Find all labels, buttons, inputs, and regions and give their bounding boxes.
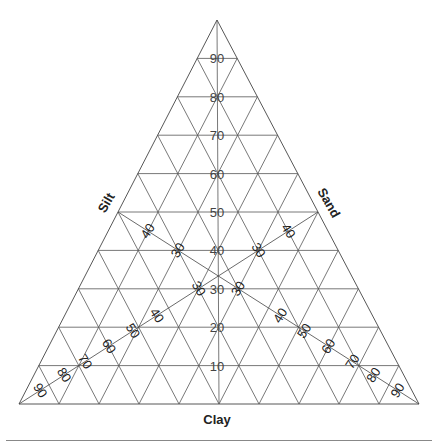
silt-diagonal-label: 80 [363, 365, 383, 385]
silt-diagonal-label: 30 [228, 278, 248, 298]
bottom-rule-divider [6, 440, 432, 441]
center-scale-label: 90 [210, 51, 224, 66]
center-scale-label: 50 [210, 205, 224, 220]
silt-diagonal-label: 30 [168, 240, 188, 260]
center-scale-label: 40 [210, 243, 224, 258]
ternary-diagram: 102030405060708090 908070605040303040403… [0, 0, 435, 444]
silt-diagonal-label: 60 [318, 336, 338, 356]
sand-diagonal-label: 70 [75, 351, 95, 371]
center-scale-label: 70 [210, 128, 224, 143]
axis-label-silt: Silt [95, 190, 118, 216]
sand-diagonal-label: 30 [248, 240, 268, 260]
silt-diagonal-label: 70 [342, 351, 362, 371]
sand-diagonal-label: 40 [278, 221, 298, 241]
axis-label-clay: Clay [203, 412, 231, 427]
silt-diagonal-label: 90 [387, 380, 407, 400]
center-scale-labels: 102030405060708090 [210, 51, 224, 373]
sand-diagonal-label: 30 [189, 278, 209, 298]
center-scale-label: 30 [210, 282, 224, 297]
sand-diagonal-label: 80 [54, 365, 74, 385]
sand-diagonal-label: 90 [30, 380, 50, 400]
silt-diagonal-label: 40 [137, 221, 157, 241]
center-scale-label: 80 [210, 90, 224, 105]
silt-diagonal-label: 40 [270, 305, 290, 325]
sand-diagonal-label: 40 [147, 305, 167, 325]
sand-diagonal-label: 60 [99, 336, 119, 356]
center-scale-label: 10 [210, 359, 224, 374]
axis-label-sand: Sand [314, 185, 343, 220]
center-scale-label: 20 [210, 320, 224, 335]
center-scale-label: 60 [210, 167, 224, 182]
